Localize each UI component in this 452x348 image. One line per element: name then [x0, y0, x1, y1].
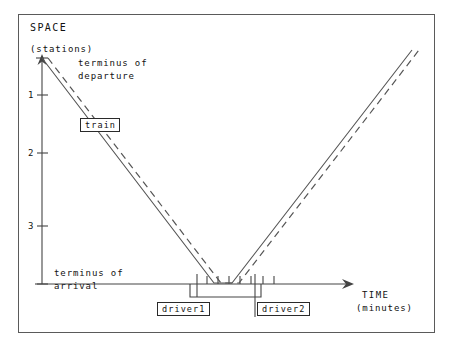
- train-trajectory-dashed: [48, 50, 419, 283]
- terminus-of-arrival-label: terminus of arrival: [54, 267, 124, 293]
- train-trajectory-solid: [42, 50, 412, 283]
- y-axis: [38, 54, 47, 284]
- driver2-label-box: driver2: [257, 302, 310, 316]
- y-axis-title: SPACE: [30, 22, 67, 33]
- train-label-box: train: [80, 118, 120, 132]
- y-tick-label-1: 1: [28, 90, 33, 100]
- driver1-label-box: driver1: [157, 302, 210, 316]
- terminus-of-departure-label: terminus of departure: [78, 57, 148, 83]
- y-tick-label-3: 3: [28, 221, 33, 231]
- figure-canvas: SPACE (stations) terminus of departure t…: [0, 0, 452, 348]
- x-axis-title: TIME: [362, 290, 389, 300]
- y-axis-units: (stations): [30, 44, 93, 54]
- y-tick-label-2: 2: [28, 148, 33, 158]
- driver1-bracket: [190, 284, 261, 297]
- x-axis-units: (minutes): [356, 303, 413, 313]
